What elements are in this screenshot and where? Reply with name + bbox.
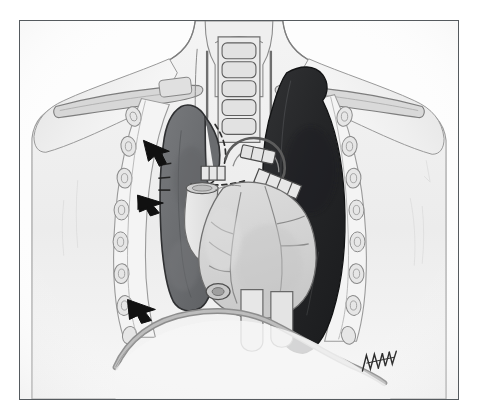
thorax-illustration bbox=[20, 21, 458, 399]
paper-vignette bbox=[20, 21, 458, 399]
figure-frame bbox=[19, 20, 459, 400]
illustration-stage: Coronal thoracic illustration: collapsed… bbox=[0, 0, 478, 419]
